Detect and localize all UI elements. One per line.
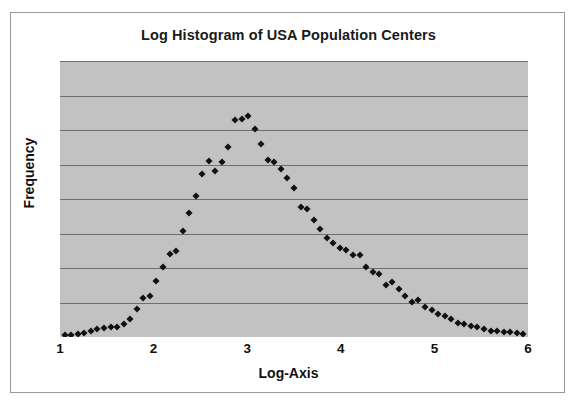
data-point xyxy=(448,316,455,323)
chart-figure: Log Histogram of USA Population Centers … xyxy=(10,12,565,393)
data-point xyxy=(218,158,225,165)
data-point xyxy=(212,167,219,174)
data-points-layer xyxy=(60,61,528,337)
data-point xyxy=(100,325,107,332)
data-point xyxy=(251,126,258,133)
plot-area xyxy=(60,61,528,337)
data-point xyxy=(205,158,212,165)
data-point xyxy=(277,165,284,172)
data-point xyxy=(363,264,370,271)
data-point xyxy=(225,143,232,150)
data-point xyxy=(415,297,422,304)
data-point xyxy=(389,278,396,285)
data-point xyxy=(120,320,127,327)
data-point xyxy=(395,285,402,292)
data-point xyxy=(146,293,153,300)
data-point xyxy=(179,227,186,234)
data-point xyxy=(284,175,291,182)
data-point xyxy=(330,240,337,247)
data-point xyxy=(114,324,121,331)
x-tick-label: 4 xyxy=(337,341,345,356)
x-tick-label: 6 xyxy=(524,341,532,356)
data-point xyxy=(480,326,487,333)
data-point xyxy=(153,278,160,285)
data-point xyxy=(159,264,166,271)
data-point xyxy=(402,293,409,300)
data-point xyxy=(343,247,350,254)
data-point xyxy=(258,141,265,148)
data-point xyxy=(231,116,238,123)
data-point xyxy=(304,205,311,212)
data-point xyxy=(376,271,383,278)
data-point xyxy=(127,316,134,323)
data-point xyxy=(310,216,317,223)
data-point xyxy=(356,251,363,258)
x-tick-label: 3 xyxy=(243,341,251,356)
data-point xyxy=(186,210,193,217)
data-point xyxy=(271,158,278,165)
x-tick-label: 5 xyxy=(431,341,439,356)
chart-title: Log Histogram of USA Population Centers xyxy=(11,27,566,43)
data-point xyxy=(192,192,199,199)
x-tick-label: 1 xyxy=(56,341,64,356)
data-point xyxy=(290,184,297,191)
x-axis-ticks: 123456 xyxy=(60,341,528,361)
data-point xyxy=(520,330,527,337)
y-axis-label: Frequency xyxy=(21,93,37,253)
x-axis-label: Log-Axis xyxy=(11,365,566,381)
data-point xyxy=(199,171,206,178)
data-point xyxy=(317,226,324,233)
data-point xyxy=(133,306,140,313)
x-tick-label: 2 xyxy=(150,341,158,356)
data-point xyxy=(323,234,330,241)
